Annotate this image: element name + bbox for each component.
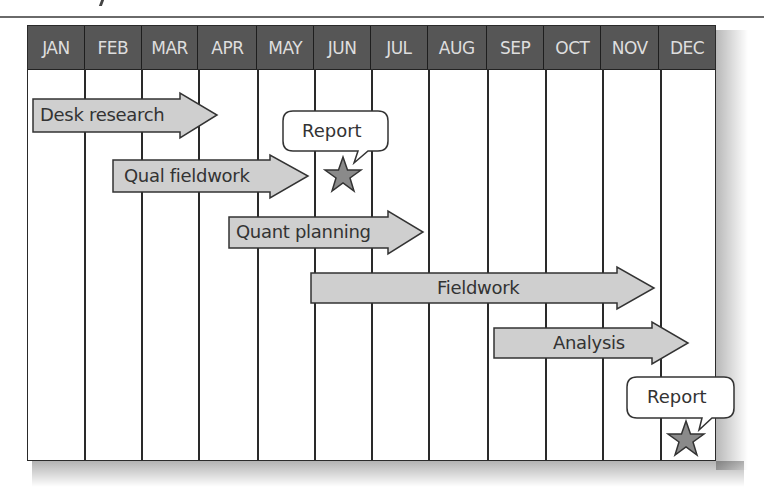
milestone-label-report-1: Report bbox=[302, 120, 362, 141]
task-label-analysis: Analysis bbox=[553, 332, 625, 353]
milestone-label-report-2: Report bbox=[647, 386, 707, 407]
task-label-qual-fieldwork: Qual fieldwork bbox=[124, 165, 250, 186]
timeline-shapes bbox=[0, 0, 764, 494]
task-label-desk-research: Desk research bbox=[40, 104, 164, 125]
star-icon bbox=[668, 421, 704, 455]
task-label-quant-planning: Quant planning bbox=[236, 221, 371, 242]
task-label-fieldwork: Fieldwork bbox=[437, 277, 519, 298]
